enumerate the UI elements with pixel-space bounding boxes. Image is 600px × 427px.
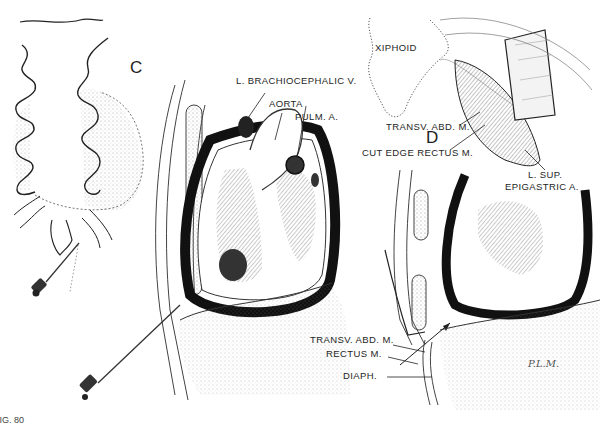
panel-c-sternum-drawing [13,19,143,296]
label-transv-abd-m-bottom: TRANSV. ABD. M. [310,334,394,345]
label-epigastric-a: EPIGASTRIC A. [505,181,579,192]
label-aorta: AORTA [269,98,303,109]
label-pulm-a: PULM. A. [295,111,338,122]
label-l-sup: L. SUP. [528,169,562,180]
panel-d-sagittal-drawing [385,170,600,410]
label-transv-abd-m-top: TRANSV. ABD. M. [386,121,470,132]
label-cut-edge-rectus-m: CUT EDGE RECTUS M. [362,147,473,158]
anatomical-illustration [0,0,600,427]
label-rectus-m: RECTUS M. [326,348,382,359]
artist-signature: P.L.M. [528,358,559,369]
label-diaph: DIAPH. [343,370,377,381]
label-l-brachiocephalic-v: L. BRACHIOCEPHALIC V. [236,75,357,86]
panel-label-c: C [130,58,142,78]
label-xiphoid: XIPHOID [375,42,417,53]
figure-caption: FIG. 80 [0,415,24,425]
